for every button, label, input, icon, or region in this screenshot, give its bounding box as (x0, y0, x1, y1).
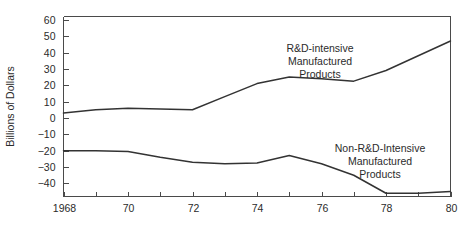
y-axis-title: Billions of Dollars (4, 66, 16, 147)
annot-rd-intensive: R&D-intensiveManufacturedProducts (286, 42, 353, 80)
x-axis-tick-label: 78 (381, 202, 393, 214)
x-axis-tick-label: 1968 (53, 202, 77, 214)
y-axis-tick-label: 0 (50, 112, 56, 124)
annotation-line: R&D-intensive (286, 42, 353, 54)
chart-figure: 6050403020100−10−20−30−40196870727476788… (0, 0, 472, 228)
y-axis-tick-label: −20 (38, 145, 56, 157)
y-axis-tick-label: 50 (44, 30, 56, 42)
annotation-line: Manufactured (288, 55, 352, 67)
y-axis-tick-label: 10 (44, 96, 56, 108)
x-axis-tick-label: 74 (252, 202, 264, 214)
annotation-line: Products (299, 68, 340, 80)
y-axis-tick-label: 40 (44, 47, 56, 59)
x-axis-tick-label: 80 (446, 202, 458, 214)
y-axis-tick-label: 60 (44, 14, 56, 26)
y-axis-tick-label: −10 (38, 128, 56, 140)
annotation-line: Products (359, 168, 400, 180)
annotation-line: Manufactured (348, 155, 412, 167)
annot-non-rd-intensive: Non-R&D-IntensiveManufacturedProducts (335, 142, 426, 180)
y-axis-tick-label: 20 (44, 79, 56, 91)
annotation-line: Non-R&D-Intensive (335, 142, 426, 154)
y-axis-tick-label: −30 (38, 161, 56, 173)
y-axis-tick-label: 30 (44, 63, 56, 75)
line-chart: 6050403020100−10−20−30−40196870727476788… (0, 0, 472, 228)
y-axis-tick-label: −40 (38, 177, 56, 189)
x-axis-tick-label: 72 (188, 202, 200, 214)
x-axis-tick-label: 70 (123, 202, 135, 214)
x-axis-tick-label: 76 (317, 202, 329, 214)
series-line-1 (64, 41, 451, 113)
